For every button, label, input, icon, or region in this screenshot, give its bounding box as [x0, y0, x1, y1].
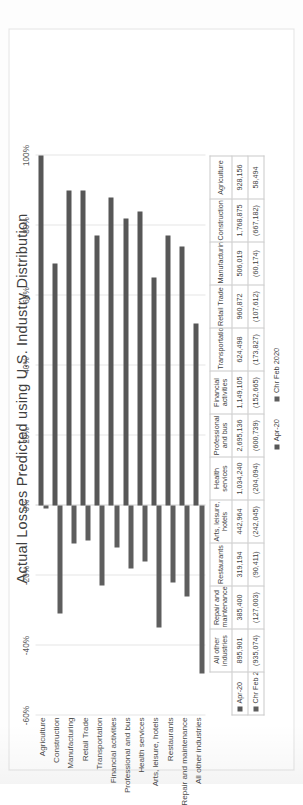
bar — [184, 505, 189, 596]
data-table: All other industriesRepair and maintenan… — [209, 155, 264, 715]
bar — [170, 505, 175, 582]
table-corner-cell — [210, 672, 232, 715]
legend-item[interactable]: Chr Feb 2020 — [271, 347, 280, 400]
table-cell: (204,094) — [247, 457, 263, 500]
table-column-header: Arts, leisure, hotels — [210, 500, 232, 543]
table-header-row: All other industriesRepair and maintenan… — [210, 156, 232, 715]
table-cell: (935,074) — [247, 629, 263, 672]
table-cell: 1,149,105 — [231, 371, 247, 414]
table-column-header: Restaurants — [210, 543, 232, 586]
axis-tick-label: 0% — [20, 499, 30, 511]
table-cell: (127,003) — [247, 586, 263, 629]
legend-item[interactable]: Apr-20 — [271, 419, 280, 449]
bar — [57, 505, 62, 614]
table-cell: 319,194 — [231, 543, 247, 586]
gridline — [35, 644, 205, 645]
table-cell: (600,739) — [247, 414, 263, 457]
table-cell: 1,768,875 — [231, 199, 247, 242]
table-cell: 1,034,240 — [231, 457, 247, 500]
axis-tick-label: -60% — [20, 705, 30, 724]
table-column-header: Financial activities — [210, 371, 232, 414]
legend-label: Apr-20 — [271, 419, 280, 441]
table-row-header: Apr-20 — [231, 672, 247, 715]
bar — [165, 236, 170, 506]
gridline — [35, 154, 205, 155]
category-label: Restaurants — [165, 717, 174, 761]
bar — [123, 218, 128, 505]
plot-area: -60%-40%-20%0%20%40%60%80%100% — [35, 155, 205, 715]
table-column-header: Transportation — [210, 328, 232, 371]
table-cell: 960,872 — [231, 285, 247, 328]
table-cell: 385,400 — [231, 586, 247, 629]
category-label: Financial activities — [108, 717, 117, 783]
table-row: Apr-20895,901385,400319,194442,9641,034,… — [231, 156, 247, 715]
legend-label: Chr Feb 2020 — [271, 347, 280, 392]
bar — [52, 264, 57, 506]
table-column-header: Construction — [210, 199, 232, 242]
table-cell: (90,411) — [247, 543, 263, 586]
category-label: Agriculture — [38, 717, 47, 756]
bar — [38, 155, 43, 505]
table-column-header: Health services — [210, 457, 232, 500]
bar — [128, 505, 133, 568]
category-label: Manufacturing — [66, 717, 75, 768]
table-cell: (242,045) — [247, 500, 263, 543]
category-label: Transportation — [94, 717, 103, 769]
table-row-label: Apr-20 — [234, 681, 243, 703]
table-column-header: Repair and maintenance — [210, 586, 232, 629]
table-cell: 506,019 — [231, 242, 247, 285]
chart-title: Actual Losses Predicted using U.S. Indus… — [13, 27, 29, 769]
chart-figure: Actual Losses Predicted using U.S. Indus… — [8, 28, 294, 770]
category-label: Repair and maintenance — [179, 717, 188, 805]
legend-color-swatch — [274, 444, 279, 449]
series-color-swatch — [253, 706, 258, 711]
bar — [193, 323, 198, 505]
axis-tick-label: 80% — [20, 217, 30, 234]
bar — [156, 505, 161, 628]
table-cell: 442,964 — [231, 500, 247, 543]
axis-tick-label: 100% — [20, 144, 30, 165]
table-cell: 624,498 — [231, 328, 247, 371]
table-row: Chr Feb 2020(935,074)(127,003)(90,411)(2… — [247, 156, 263, 715]
table-cell: (107,612) — [247, 285, 263, 328]
table-cell: (173,827) — [247, 328, 263, 371]
table-cell: 58,494 — [247, 156, 263, 199]
bar — [108, 197, 113, 505]
gridline — [35, 224, 205, 225]
bar — [199, 505, 204, 673]
category-label: Construction — [52, 717, 61, 762]
table-row-header: Chr Feb 2020 — [247, 672, 263, 715]
category-label: Arts, leisure, hotels — [151, 717, 160, 786]
bar — [66, 190, 71, 505]
table-row-label: Chr Feb 2020 — [250, 672, 259, 704]
category-axis-labels: AgricultureConstructionManufacturingReta… — [35, 717, 205, 771]
table-cell: 895,901 — [231, 629, 247, 672]
category-label: Professional and bus — [123, 717, 132, 793]
table-cell: (667,182) — [247, 199, 263, 242]
table-cell: 928,156 — [231, 156, 247, 199]
category-label: Health services — [137, 717, 146, 772]
series-color-swatch — [237, 706, 242, 711]
axis-tick-label: 20% — [20, 427, 30, 444]
category-label: Retail Trade — [80, 717, 89, 761]
axis-tick-label: -40% — [20, 635, 30, 654]
table-column-header: All other industries — [210, 629, 232, 672]
table-column-header: Agriculture — [210, 156, 232, 199]
table-cell: (60,174) — [247, 242, 263, 285]
legend-color-swatch — [274, 396, 279, 401]
bar — [43, 505, 48, 509]
axis-tick-label: 60% — [20, 287, 30, 304]
bar — [71, 505, 76, 544]
bar — [114, 505, 119, 547]
gridline — [35, 714, 205, 715]
table-cell: 2,695,136 — [231, 414, 247, 457]
table-column-header: Manufacturing — [210, 242, 232, 285]
table-body: Apr-20895,901385,400319,194442,9641,034,… — [231, 156, 263, 715]
bar — [151, 278, 156, 506]
axis-tick-label: -20% — [20, 565, 30, 584]
table-column-header: Retail Trade — [210, 285, 232, 328]
bar — [85, 505, 90, 540]
bar — [179, 246, 184, 505]
bar — [99, 505, 104, 586]
